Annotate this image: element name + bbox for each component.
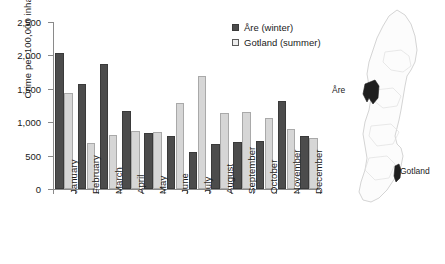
bar-march-are bbox=[100, 64, 108, 189]
x-label-january: January bbox=[68, 160, 79, 195]
x-label-december: December bbox=[313, 149, 324, 194]
x-label-april: April bbox=[135, 174, 146, 194]
legend-entry-gotland: Gotland (summer) bbox=[232, 37, 321, 48]
sweden-map: Åre Gotland bbox=[345, 6, 445, 218]
legend-swatch-are-icon bbox=[232, 24, 239, 31]
x-label-march: March bbox=[113, 167, 124, 194]
y-tick-label-1500: 1,500 bbox=[17, 83, 41, 94]
legend-label-gotland: Gotland (summer) bbox=[244, 37, 321, 48]
bar-november-are bbox=[278, 101, 286, 189]
bar-group bbox=[122, 22, 139, 189]
y-tick-label-1000: 1,000 bbox=[17, 117, 41, 128]
y-tick-label-500: 500 bbox=[25, 150, 41, 161]
y-tick-label-2500: 2,500 bbox=[17, 17, 41, 28]
legend-swatch-gotland-icon bbox=[232, 39, 239, 46]
sweden-outline-icon bbox=[345, 6, 445, 218]
crime-rate-bar-chart-figure: Crime per 100,000 inhabitants 05001,0001… bbox=[0, 0, 445, 264]
x-label-november: November bbox=[291, 149, 302, 194]
bar-july-are bbox=[189, 152, 197, 189]
x-label-august: August bbox=[224, 164, 235, 194]
bar-group bbox=[100, 22, 117, 189]
bar-july-gotland bbox=[198, 76, 206, 189]
x-label-february: February bbox=[90, 155, 101, 194]
x-label-september: September bbox=[246, 147, 257, 194]
x-label-june: June bbox=[179, 173, 190, 194]
x-label-october: October bbox=[268, 160, 279, 195]
chart-legend: Åre (winter) Gotland (summer) bbox=[232, 22, 321, 52]
map-label-are: Åre bbox=[332, 85, 345, 95]
x-tick bbox=[53, 190, 54, 194]
bar-group bbox=[167, 22, 184, 189]
map-label-gotland: Gotland bbox=[400, 166, 430, 176]
legend-entry-are: Åre (winter) bbox=[232, 22, 321, 33]
legend-label-are: Åre (winter) bbox=[244, 22, 293, 33]
x-label-july: July bbox=[202, 177, 213, 194]
bar-group bbox=[144, 22, 161, 189]
y-tick-label-0: 0 bbox=[36, 184, 41, 195]
bar-group bbox=[189, 22, 206, 189]
y-tick-label-2000: 2,000 bbox=[17, 50, 41, 61]
x-label-may: May bbox=[157, 176, 168, 194]
bar-january-are bbox=[55, 53, 63, 189]
